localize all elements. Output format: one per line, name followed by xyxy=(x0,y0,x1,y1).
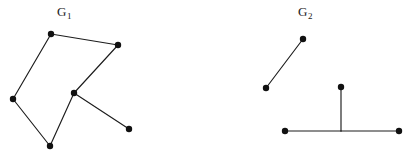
graph-edge-g1-b-c xyxy=(74,45,118,93)
graph-canvas xyxy=(0,0,417,161)
graph-vertex-g1-bottom xyxy=(47,143,53,149)
graph-vertex-g1-top-left xyxy=(48,31,54,37)
graph-g1-label-base: G xyxy=(57,4,67,19)
graph-g1-label: G1 xyxy=(57,5,71,18)
graph-edge-g1-c-e xyxy=(50,93,74,146)
graph-edge-g2-p-q xyxy=(266,39,303,88)
graph-g2-edge-group xyxy=(266,39,399,131)
graph-edge-g1-c-f xyxy=(74,93,129,129)
graph-vertex-g2-bar-right-end xyxy=(396,128,402,134)
graph-vertex-g2-bar-left-end xyxy=(282,128,288,134)
graph-g2-label: G2 xyxy=(298,5,312,18)
graph-g2-label-subscript: 2 xyxy=(308,11,313,21)
graph-vertex-g1-pendant-lower-right xyxy=(126,126,132,132)
graph-edge-g1-d-a xyxy=(13,34,51,99)
graph-vertex-g1-top-right xyxy=(115,42,121,48)
graph-edge-g1-e-d xyxy=(13,99,50,146)
graph-g1-vertex-group xyxy=(10,31,132,149)
graph-g1-label-subscript: 1 xyxy=(67,11,72,21)
graph-vertex-g2-lower-left-of-segment xyxy=(263,85,269,91)
graph-vertex-g2-upper-right-of-segment xyxy=(300,36,306,42)
graph-vertex-g1-left xyxy=(10,96,16,102)
graph-figure: G1 G2 xyxy=(0,0,417,161)
graph-g2-vertex-group xyxy=(263,36,402,134)
graph-g1-edge-group xyxy=(13,34,129,146)
graph-g2-label-base: G xyxy=(298,4,308,19)
graph-edge-g1-a-b xyxy=(51,34,118,45)
graph-vertex-g1-center xyxy=(71,90,77,96)
graph-vertex-g2-stem-top xyxy=(338,84,344,90)
